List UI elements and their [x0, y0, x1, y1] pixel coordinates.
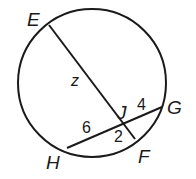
point-label-h: H: [46, 152, 60, 173]
segment-label-ej: z: [70, 72, 79, 89]
circle-chords-diagram: E F G H J z 2 6 4: [0, 0, 196, 179]
point-label-f: F: [138, 146, 151, 167]
point-label-e: E: [27, 9, 40, 30]
segment-label-jf: 2: [114, 128, 123, 145]
segment-label-jg: 4: [137, 96, 146, 113]
segment-label-hj: 6: [82, 119, 91, 136]
point-label-j: J: [116, 102, 127, 123]
point-label-g: G: [167, 97, 182, 118]
